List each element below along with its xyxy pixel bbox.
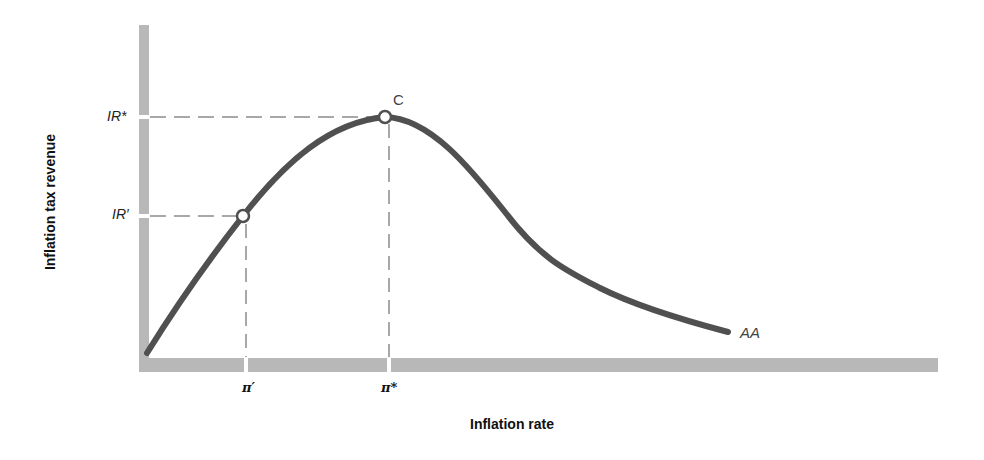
x-axis-notch-pi-star bbox=[387, 358, 391, 372]
x-tick-pi-star: π* bbox=[381, 380, 397, 395]
x-axis-notch-pi-prime bbox=[244, 358, 248, 372]
y-axis-title: Inflation tax revenue bbox=[42, 134, 58, 270]
point-prime-marker bbox=[237, 210, 249, 222]
aa-curve bbox=[147, 117, 728, 353]
y-axis-notch-ir-prime bbox=[139, 214, 149, 218]
curve-aa-label: AA bbox=[740, 324, 760, 341]
point-c-marker bbox=[379, 111, 391, 123]
point-c-label: C bbox=[393, 91, 404, 108]
x-tick-pi-prime: π′ bbox=[242, 380, 255, 395]
inflation-tax-laffer-diagram bbox=[0, 0, 984, 460]
y-tick-ir-prime: IR′ bbox=[112, 206, 129, 222]
x-axis-title: Inflation rate bbox=[470, 416, 554, 432]
x-axis bbox=[139, 358, 938, 372]
y-axis bbox=[139, 25, 149, 372]
y-axis-notch-ir-star bbox=[139, 115, 149, 119]
y-tick-ir-star: IR* bbox=[107, 108, 126, 124]
